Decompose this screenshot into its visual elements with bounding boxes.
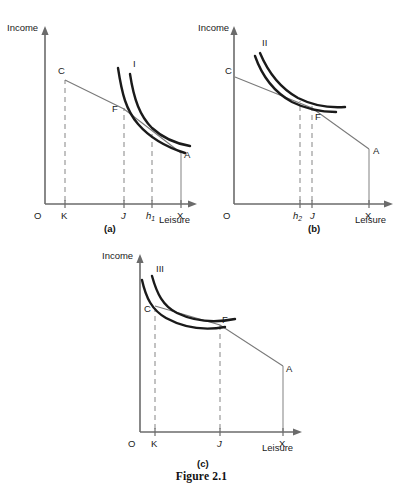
panel-c: Income Leisure C F A III O K J X (80, 240, 330, 475)
panel-b-budget-line (235, 77, 369, 149)
panel-b-curve-label-II: II (262, 37, 267, 48)
figure-caption: Figure 2.1 (0, 470, 403, 482)
panel-c-x-axis-label: Leisure (262, 442, 293, 453)
panel-b-y-axis-arrow (230, 26, 237, 35)
panel-a-point-label-F: F (112, 103, 118, 114)
panel-b-tick-label-h2: h2 (293, 210, 302, 222)
panel-c-origin-label: O (128, 438, 135, 449)
panel-c-tick-label-J: J (216, 438, 222, 449)
subcaption-a: (a) (104, 223, 116, 234)
panel-a: Income Leisure C F A I O K J h1 X (0, 8, 200, 240)
panel-c-x-axis-arrow (293, 428, 302, 435)
panel-c-y-axis-arrow (136, 254, 143, 263)
panel-b-point-label-C: C (225, 65, 232, 76)
panel-a-y-axis-arrow (41, 26, 48, 35)
panel-a-x-axis-arrow (188, 200, 197, 207)
panel-b-x-axis-arrow (384, 200, 393, 207)
panel-a-curve-label-I: I (133, 58, 136, 69)
panel-c-point-label-C: C (144, 303, 151, 314)
panel-b: Income Leisure C F A II O h2 J X (200, 8, 403, 240)
panel-b-tick-label-X: X (365, 210, 372, 221)
panel-b-tick-label-J: J (309, 210, 315, 221)
panel-c-point-label-A: A (286, 363, 293, 374)
panel-c-tick-label-X: X (279, 438, 286, 449)
panel-a-point-label-A: A (184, 149, 191, 160)
panel-a-tick-label-J: J (120, 210, 126, 221)
subcaption-c: (c) (197, 458, 209, 469)
panel-b-origin-label: O (223, 210, 230, 221)
panel-c-tick-label-K: K (151, 438, 158, 449)
panel-a-origin-label: O (34, 210, 41, 221)
page-header-faint (6, 1, 57, 7)
panel-b-point-label-A: A (373, 145, 380, 156)
panel-a-y-axis-label: Income (7, 22, 38, 33)
panel-a-tick-label-X: X (177, 210, 184, 221)
panel-c-budget-line (155, 306, 283, 366)
panel-c-point-label-F: F (222, 314, 228, 325)
panel-a-x-axis-label: Leisure (159, 214, 190, 225)
panel-c-curve-label-III: III (156, 263, 164, 274)
panel-a-tick-label-h1: h1 (146, 210, 155, 222)
panel-b-indifference-curve-II (260, 53, 345, 107)
figure-root: Income Leisure C F A I O K J h1 X (0, 0, 403, 489)
panel-a-indifference-curve-inner (118, 68, 185, 153)
panel-b-point-label-F: F (315, 111, 321, 122)
panel-b-y-axis-label: Income (198, 22, 229, 33)
panel-a-point-label-C: C (58, 65, 65, 76)
panel-a-indifference-curve-I (130, 74, 190, 146)
panel-a-tick-label-K: K (61, 210, 68, 221)
subcaption-b: (b) (308, 223, 320, 234)
panel-c-y-axis-label: Income (102, 250, 133, 261)
panel-b-indifference-curve-inner (255, 56, 336, 112)
